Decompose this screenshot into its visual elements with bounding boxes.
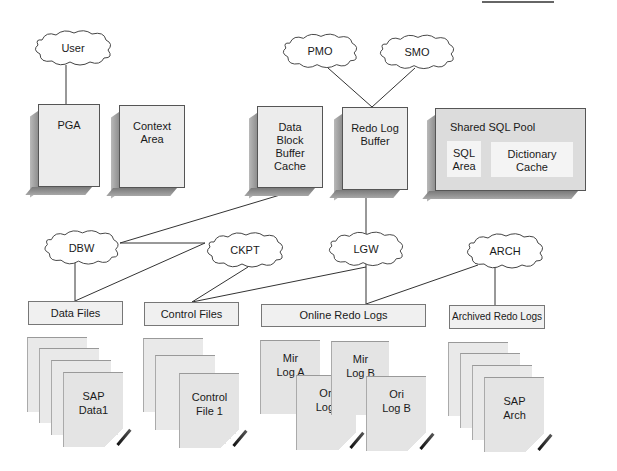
process-label: User (32, 42, 114, 54)
document-ori-log-b: Ori Log B (366, 376, 426, 451)
sql-area: SQL Area (447, 141, 481, 177)
memory-data-block-buffer-cache: Data Block Buffer Cache (257, 106, 323, 188)
shared-pool-title: Shared SQL Pool (450, 121, 585, 134)
memory-redo-log-buffer: Redo Log Buffer (342, 107, 408, 190)
page-curl-icon (105, 425, 123, 447)
process-lgw: LGW (326, 229, 406, 269)
memory-label: Data (258, 121, 322, 134)
process-label: ARCH (464, 245, 546, 257)
document-sap-data1: SAP Data1 (63, 372, 123, 447)
memory-label: Redo Log (343, 122, 407, 135)
page-curl-icon (526, 430, 544, 452)
memory-shared-sql-pool: Shared SQL Pool SQL Area Dictionary Cach… (435, 108, 586, 191)
process-label: PMO (280, 45, 360, 57)
group-archived-redo-logs: Archived Redo Logs (449, 305, 545, 329)
document-label: Log (297, 400, 334, 414)
memory-label: PGA (39, 119, 99, 132)
memory-pga: PGA (38, 104, 100, 187)
process-label: CKPT (204, 244, 286, 256)
document-label: Ori (367, 387, 426, 401)
process-smo: SMO (377, 32, 457, 72)
memory-label: Context (120, 120, 184, 133)
memory-label: Buffer (343, 135, 407, 148)
process-label: DBW (41, 242, 122, 254)
process-pmo: PMO (280, 31, 360, 71)
process-dbw: DBW (41, 228, 122, 267)
process-label: LGW (326, 243, 406, 255)
document-label: Data1 (64, 403, 123, 417)
sql-area-label: Area (447, 160, 481, 173)
memory-label: Block (258, 134, 322, 147)
document-label: Control (180, 390, 239, 404)
sql-area-label: SQL (447, 147, 481, 160)
document-label: File 1 (180, 404, 239, 418)
group-data-files: Data Files (28, 301, 123, 325)
process-label: SMO (377, 46, 457, 58)
document-sap-arch: SAP Arch (484, 377, 544, 452)
memory-context-area: Context Area (119, 105, 185, 188)
document-label: Mir (261, 351, 320, 365)
memory-label: Buffer (258, 147, 322, 160)
document-label: SAP (64, 389, 123, 403)
document-label: Log B (367, 401, 426, 415)
document-label: Mir (332, 352, 389, 366)
process-arch: ARCH (464, 231, 546, 271)
process-user: User (32, 28, 114, 68)
group-online-redo-logs: Online Redo Logs (261, 304, 426, 327)
document-control-file-1: Control File 1 (179, 373, 239, 448)
page-curl-icon (221, 426, 239, 448)
dictionary-cache-label: Dictionary (491, 148, 573, 161)
dictionary-cache: Dictionary Cache (491, 142, 573, 177)
memory-label: Cache (258, 160, 322, 173)
page-curl-icon (338, 428, 356, 450)
page-curl-icon (408, 429, 426, 451)
document-label: SAP (485, 394, 544, 408)
process-ckpt: CKPT (204, 230, 286, 270)
memory-label: Area (120, 133, 184, 146)
dictionary-cache-label: Cache (491, 161, 573, 174)
document-label: Arch (485, 408, 544, 422)
group-control-files: Control Files (144, 302, 239, 326)
document-label: Ori (297, 386, 334, 400)
